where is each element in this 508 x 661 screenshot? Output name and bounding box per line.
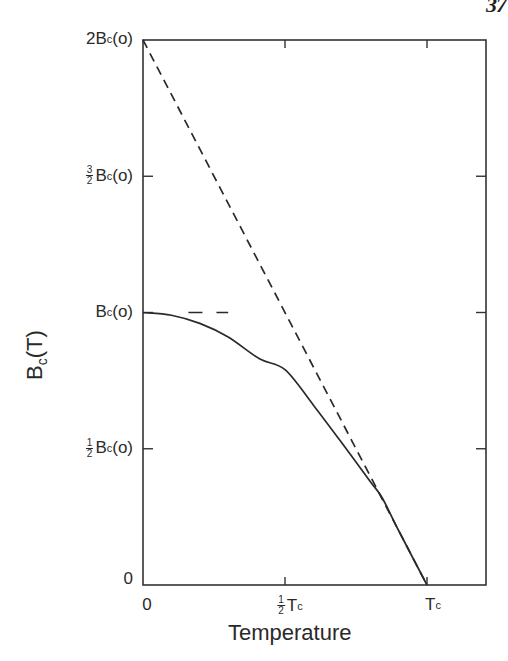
x-tick-label-main: T <box>287 596 297 616</box>
y-tick-label-tail: (o) <box>112 302 133 322</box>
y-axis-title-sub: c <box>34 358 50 365</box>
y-axis-title: Bc(T) <box>22 330 48 380</box>
y-tick-label-tail: (o) <box>112 166 133 186</box>
x-tick-label: Tc <box>425 595 441 615</box>
y-tick-label-main: B <box>95 166 106 186</box>
x-tick-label: 12Tc <box>277 595 302 616</box>
y-tick-label: 2Bc(o) <box>86 29 133 49</box>
x-tick-label-main: T <box>425 595 435 615</box>
x-tick-label: 0 <box>142 595 151 615</box>
series-layer <box>143 40 427 585</box>
x-axis-title: Temperature <box>228 620 352 646</box>
y-tick-label-fraction: 32 <box>86 165 94 186</box>
y-tick-label: Bc(o) <box>95 302 133 322</box>
y-axis-title-main: B <box>22 365 47 380</box>
y-tick-label-tail: (o) <box>112 438 133 458</box>
y-tick-label: 32Bc(o) <box>86 165 133 186</box>
y-tick-label: 0 <box>124 569 133 589</box>
y-tick-label-prefix: 2 <box>86 29 95 49</box>
y-tick-label-main: B <box>95 29 106 49</box>
y-tick-label-fraction: 12 <box>86 438 94 459</box>
y-tick-label-tail: (o) <box>112 29 133 49</box>
y-axis-title-tail: (T) <box>22 330 47 358</box>
series-line-0 <box>143 313 427 586</box>
y-tick-label: 12Bc(o) <box>86 438 133 459</box>
y-tick-label-main: B <box>95 438 106 458</box>
y-tick-label-main: B <box>95 302 106 322</box>
chart-plot <box>0 0 508 661</box>
x-tick-label-fraction: 12 <box>277 595 285 616</box>
